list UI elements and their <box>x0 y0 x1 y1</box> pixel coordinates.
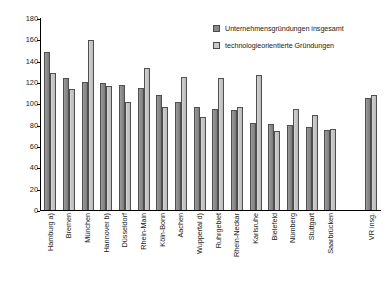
bar-group <box>134 18 153 210</box>
bar-series-2 <box>274 131 280 210</box>
y-axis-tick-label: 180 <box>14 15 38 22</box>
bar-group <box>209 18 228 210</box>
bar-groups <box>41 18 381 210</box>
bar-group <box>116 18 135 210</box>
category-label: Saarbrücken <box>327 213 335 254</box>
y-axis-tick-label: 20 <box>14 186 38 193</box>
bar-group <box>284 18 303 210</box>
bar-group <box>60 18 79 210</box>
category-label: Rhein-Neckar <box>233 213 241 257</box>
y-axis-tick-mark <box>37 62 40 63</box>
category-label: Hannover b) <box>103 213 111 253</box>
category-label: Stuttgart <box>308 213 316 240</box>
y-axis-tick-label: 160 <box>14 37 38 44</box>
category-label: Bielefeld <box>271 213 279 241</box>
bar-group <box>246 18 265 210</box>
category-label: Karlsruhe <box>252 213 260 244</box>
y-axis-tick-label: 40 <box>14 165 38 172</box>
category-label-cell: Karlsruhe <box>246 213 265 291</box>
bar-series-2 <box>218 78 224 210</box>
y-axis-tick-mark <box>37 126 40 127</box>
category-label: VR insg. <box>368 213 376 240</box>
category-label: Nürnberg <box>289 213 297 243</box>
x-axis-category-labels: Hamburg a)BremenMünchenHannover b)Düssel… <box>41 213 381 291</box>
bar-group <box>97 18 116 210</box>
category-label-cell: München <box>78 213 97 291</box>
category-label-cell: Hannover b) <box>97 213 116 291</box>
category-label: Aachen <box>177 213 185 237</box>
y-axis-tick-mark <box>37 104 40 105</box>
category-label-cell: Ruhrgebiet <box>209 213 228 291</box>
plot-area: 020406080100120140160180 <box>40 18 381 211</box>
y-axis-tick-label: 140 <box>14 58 38 65</box>
category-label-cell: Aachen <box>172 213 191 291</box>
category-label-separator <box>340 213 362 291</box>
category-label: Düsseldorf <box>121 213 129 247</box>
category-label-cell: Köln-Bonn <box>153 213 172 291</box>
bar-series-2 <box>50 73 56 210</box>
bar-series-2 <box>106 86 112 210</box>
category-label-cell: Rhein-Neckar <box>228 213 247 291</box>
bar-series-2 <box>162 107 168 210</box>
category-label-cell: Stuttgart <box>302 213 321 291</box>
x-axis-line <box>40 210 381 211</box>
y-axis-tick-label: 60 <box>14 143 38 150</box>
category-label: Wuppertal d) <box>196 213 204 254</box>
category-label-cell: Bremen <box>60 213 79 291</box>
bar-group <box>190 18 209 210</box>
category-label: Köln-Bonn <box>159 213 167 247</box>
bar-group <box>153 18 172 210</box>
category-label: Ruhrgebiet <box>215 213 223 248</box>
bar-series-2 <box>312 115 318 210</box>
category-label: München <box>84 213 92 243</box>
category-label: Bremen <box>65 213 73 238</box>
y-axis-tick-mark <box>37 19 40 20</box>
bar-series-2 <box>293 109 299 210</box>
bar-group <box>265 18 284 210</box>
y-axis-tick-mark <box>37 83 40 84</box>
bar-group <box>172 18 191 210</box>
y-axis-tick-label: 80 <box>14 122 38 129</box>
category-label-cell: Wuppertal d) <box>190 213 209 291</box>
bar-series-2 <box>69 89 75 210</box>
bar-series-2 <box>125 102 131 210</box>
bar-group <box>302 18 321 210</box>
category-label-cell: Rhein-Main <box>134 213 153 291</box>
bar-group <box>321 18 340 210</box>
y-axis-tick-mark <box>37 211 40 212</box>
y-axis-tick-mark <box>37 190 40 191</box>
category-label-cell: Hamburg a) <box>41 213 60 291</box>
y-axis-tick-mark <box>37 168 40 169</box>
category-label-cell: VR insg. <box>362 213 381 291</box>
bar-group <box>78 18 97 210</box>
bar-series-2 <box>181 77 187 210</box>
bar-chart: Unternehmensgründungen insgesamt technol… <box>0 0 388 292</box>
bar-group <box>41 18 60 210</box>
y-axis-tick-label: 100 <box>14 101 38 108</box>
bar-series-2 <box>330 129 336 210</box>
y-axis-tick-mark <box>37 40 40 41</box>
category-label: Hamburg a) <box>47 213 55 251</box>
y-axis-tick-label: 0 <box>14 207 38 214</box>
bar-group <box>362 18 381 210</box>
bar-series-2 <box>237 107 243 210</box>
bar-group <box>228 18 247 210</box>
y-axis-tick-mark <box>37 147 40 148</box>
bar-series-2 <box>371 95 377 210</box>
bar-series-2 <box>256 75 262 210</box>
category-label: Rhein-Main <box>140 213 148 250</box>
category-label-cell: Bielefeld <box>265 213 284 291</box>
bar-series-2 <box>200 117 206 210</box>
bar-series-2 <box>88 40 94 210</box>
y-axis-tick-label: 120 <box>14 79 38 86</box>
category-label-cell: Düsseldorf <box>116 213 135 291</box>
bar-series-2 <box>144 68 150 210</box>
category-label-cell: Nürnberg <box>284 213 303 291</box>
group-separator <box>340 18 362 210</box>
category-label-cell: Saarbrücken <box>321 213 340 291</box>
